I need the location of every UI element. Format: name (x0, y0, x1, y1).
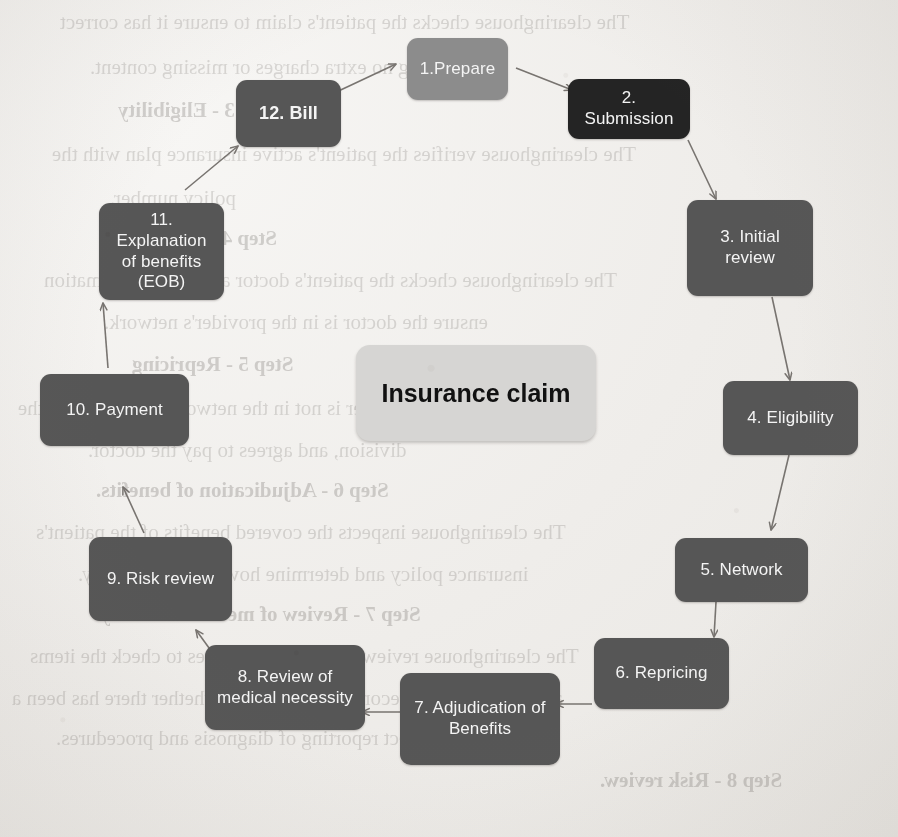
bleed-text-line: The clearinghouse verifies the patient's… (52, 142, 636, 167)
node-label: 1.Prepare (420, 59, 496, 80)
center-label-text: Insurance claim (382, 379, 571, 408)
node-label: 12. Bill (259, 103, 318, 125)
node-label: 4. Eligibility (747, 408, 833, 429)
arrow-9-to-10 (123, 487, 144, 533)
node-step-8-review-of-medical-necessity[interactable]: 8. Review of medical necessity (205, 645, 365, 730)
arrow-3-to-4 (772, 297, 790, 380)
flowchart-canvas: The clearinghouse checks the patient's c… (0, 0, 898, 837)
arrow-11-to-12 (185, 146, 238, 190)
arrow-10-to-11 (103, 303, 108, 368)
node-step-10-payment[interactable]: 10. Payment (40, 374, 189, 446)
node-step-1-prepare[interactable]: 1.Prepare (407, 38, 508, 100)
arrow-5-to-6 (714, 602, 716, 637)
node-label: 8. Review of medical necessity (213, 667, 357, 708)
node-step-2-submission[interactable]: 2. Submission (568, 79, 690, 139)
bleed-text-line: Step 6 - Adjudication of benefits. (96, 478, 389, 503)
node-step-7-adjudication-of-benefits[interactable]: 7. Adjudication of Benefits (400, 673, 560, 765)
node-label: 6. Repricing (616, 663, 708, 684)
node-step-11-explanation-of-benefits[interactable]: 11. Explanation of benefits (EOB) (99, 203, 224, 300)
arrow-2-to-3 (688, 140, 716, 199)
arrow-1-to-2 (516, 68, 572, 90)
node-label: 11. Explanation of benefits (EOB) (107, 210, 216, 293)
bleed-text-line: Step 8 - Risk review. (600, 768, 782, 793)
node-step-9-risk-review[interactable]: 9. Risk review (89, 537, 232, 621)
node-label: 2. Submission (576, 88, 682, 129)
arrow-4-to-5 (771, 455, 789, 530)
node-label: 10. Payment (66, 400, 163, 421)
node-label: 7. Adjudication of Benefits (408, 698, 552, 739)
node-label: 3. Initial review (695, 227, 805, 268)
node-label: 5. Network (700, 560, 782, 581)
node-step-4-eligibility[interactable]: 4. Eligibility (723, 381, 858, 455)
node-step-3-initial-review[interactable]: 3. Initial review (687, 200, 813, 296)
node-step-12-bill[interactable]: 12. Bill (236, 80, 341, 147)
center-label-insurance-claim: Insurance claim (356, 345, 596, 441)
node-label: 9. Risk review (107, 569, 214, 590)
bleed-text-line: The clearinghouse checks the patient's c… (60, 10, 629, 35)
node-step-6-repricing[interactable]: 6. Repricing (594, 638, 729, 709)
bleed-text-line: ensure the doctor is in the provider's n… (104, 310, 488, 335)
node-step-5-network[interactable]: 5. Network (675, 538, 808, 602)
